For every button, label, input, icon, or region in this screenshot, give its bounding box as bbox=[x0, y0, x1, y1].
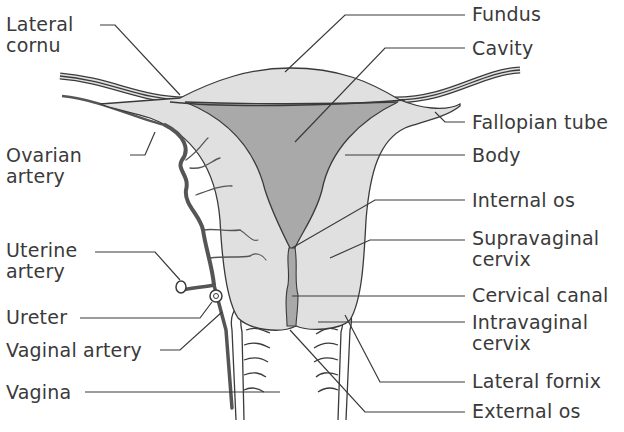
ureter-cross-section bbox=[210, 290, 222, 302]
cervical-canal bbox=[286, 248, 298, 326]
label-text: Internal os bbox=[472, 190, 575, 211]
label-text: artery bbox=[6, 261, 77, 282]
label-cervical-canal: Cervical canal bbox=[472, 285, 609, 306]
uterus-diagram: Lateral cornu Ovarian artery Uterine art… bbox=[0, 0, 624, 432]
label-text: Cavity bbox=[472, 38, 533, 59]
diagram-canvas bbox=[0, 0, 624, 432]
label-text: Fundus bbox=[472, 4, 541, 25]
label-text: Vaginal artery bbox=[6, 340, 142, 361]
fallopian-tube-right bbox=[395, 70, 520, 100]
label-text: cervix bbox=[472, 249, 599, 270]
label-text: cornu bbox=[6, 35, 74, 56]
label-vagina: Vagina bbox=[6, 382, 71, 403]
label-fallopian-tube: Fallopian tube bbox=[472, 112, 608, 133]
label-ureter: Ureter bbox=[6, 307, 67, 328]
label-text: Ureter bbox=[6, 307, 67, 328]
label-body: Body bbox=[472, 145, 521, 166]
label-text: Vagina bbox=[6, 382, 71, 403]
label-text: Intravaginal bbox=[472, 312, 588, 333]
label-supravaginal-cervix: Supravaginal cervix bbox=[472, 228, 599, 270]
label-text: Body bbox=[472, 145, 521, 166]
label-fundus: Fundus bbox=[472, 4, 541, 25]
label-text: Lateral fornix bbox=[472, 371, 601, 392]
label-external-os: External os bbox=[472, 401, 581, 422]
label-text: Fallopian tube bbox=[472, 112, 608, 133]
label-text: Supravaginal bbox=[472, 228, 599, 249]
label-lateral-fornix: Lateral fornix bbox=[472, 371, 601, 392]
label-text: External os bbox=[472, 401, 581, 422]
label-vaginal-artery: Vaginal artery bbox=[6, 340, 142, 361]
label-text: Lateral bbox=[6, 14, 74, 35]
label-text: Ovarian bbox=[6, 145, 82, 166]
label-internal-os: Internal os bbox=[472, 190, 575, 211]
label-text: Uterine bbox=[6, 240, 77, 261]
label-lateral-cornu: Lateral cornu bbox=[6, 14, 74, 56]
label-text: cervix bbox=[472, 333, 588, 354]
label-intravaginal-cervix: Intravaginal cervix bbox=[472, 312, 588, 354]
uterine-artery-cut bbox=[176, 281, 186, 293]
label-cavity: Cavity bbox=[472, 38, 533, 59]
label-text: Cervical canal bbox=[472, 285, 609, 306]
label-uterine-artery: Uterine artery bbox=[6, 240, 77, 282]
label-ovarian-artery: Ovarian artery bbox=[6, 145, 82, 187]
label-text: artery bbox=[6, 166, 82, 187]
